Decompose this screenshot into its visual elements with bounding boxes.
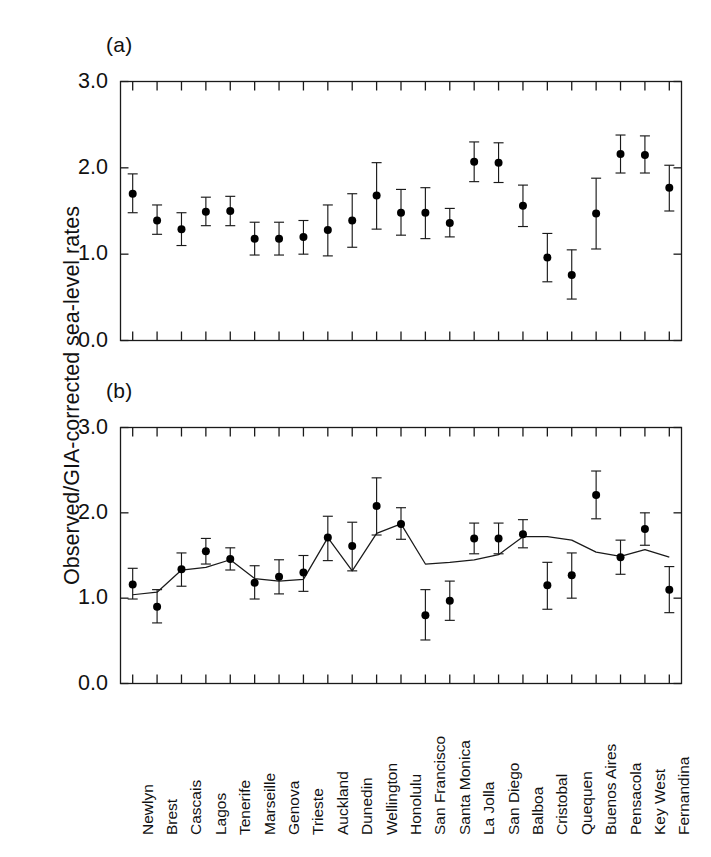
data-point bbox=[299, 569, 307, 577]
data-point bbox=[177, 225, 185, 233]
data-point bbox=[348, 216, 356, 224]
x-tick-label: Tenerife bbox=[236, 780, 254, 835]
x-tick-label: San Francisco bbox=[431, 736, 449, 835]
data-point bbox=[446, 597, 454, 605]
x-tick-label: San Diego bbox=[505, 763, 523, 835]
x-tick-label: Newlyn bbox=[139, 784, 157, 835]
y-tick-label: 0.0 bbox=[50, 330, 108, 352]
data-point bbox=[153, 216, 161, 224]
data-point bbox=[641, 151, 649, 159]
data-point bbox=[568, 271, 576, 279]
data-point bbox=[470, 158, 478, 166]
figure-container: (a) (b) Observed/GIA-corrected sea-level… bbox=[0, 0, 711, 857]
data-point bbox=[275, 235, 283, 243]
data-point bbox=[202, 208, 210, 216]
y-tick-label: 2.0 bbox=[50, 502, 108, 524]
x-tick-label: Honolulu bbox=[407, 774, 425, 835]
x-tick-label: Santa Monica bbox=[456, 740, 474, 835]
x-tick-label: Cascais bbox=[187, 780, 205, 835]
data-point bbox=[446, 219, 454, 227]
data-point bbox=[324, 226, 332, 234]
data-point bbox=[592, 491, 600, 499]
data-point bbox=[373, 191, 381, 199]
y-tick-label: 3.0 bbox=[50, 417, 108, 439]
data-point bbox=[324, 534, 332, 542]
x-tick-label: Trieste bbox=[309, 788, 327, 835]
data-point bbox=[592, 210, 600, 218]
data-point bbox=[495, 534, 503, 542]
y-tick-label: 1.0 bbox=[50, 243, 108, 265]
data-point bbox=[397, 209, 405, 217]
data-point bbox=[275, 573, 283, 581]
x-tick-label: Genova bbox=[285, 781, 303, 835]
data-point bbox=[519, 202, 527, 210]
x-tick-label: La Jolla bbox=[480, 782, 498, 835]
x-tick-label: Marseille bbox=[261, 773, 279, 835]
x-tick-label: Cristobal bbox=[553, 774, 571, 835]
data-point bbox=[251, 235, 259, 243]
data-point bbox=[665, 586, 673, 594]
x-tick-label: Auckland bbox=[334, 771, 352, 835]
x-tick-label: Pensacola bbox=[627, 763, 645, 835]
x-tick-label: Wellington bbox=[383, 763, 401, 835]
data-point bbox=[519, 530, 527, 538]
data-point bbox=[153, 603, 161, 611]
data-point bbox=[348, 542, 356, 550]
data-point bbox=[226, 555, 234, 563]
y-tick-label: 0.0 bbox=[50, 673, 108, 695]
data-point bbox=[617, 150, 625, 158]
data-point bbox=[470, 534, 478, 542]
x-tick-label: Balboa bbox=[529, 787, 547, 835]
y-tick-label: 1.0 bbox=[50, 587, 108, 609]
x-tick-label: Key West bbox=[651, 769, 669, 835]
data-point bbox=[129, 190, 137, 198]
panel-frame-b bbox=[121, 428, 682, 684]
x-tick-label: Fernandina bbox=[675, 757, 693, 835]
x-tick-label: Brest bbox=[163, 799, 181, 835]
x-tick-label: Lagos bbox=[212, 793, 230, 835]
data-point bbox=[421, 209, 429, 217]
data-point bbox=[543, 254, 551, 262]
x-tick-label: Buenos Aires bbox=[602, 744, 620, 835]
data-point bbox=[251, 579, 259, 587]
data-point bbox=[202, 547, 210, 555]
data-point bbox=[397, 520, 405, 528]
data-point bbox=[373, 502, 381, 510]
data-point bbox=[568, 571, 576, 579]
data-point bbox=[495, 159, 503, 167]
y-tick-label: 3.0 bbox=[50, 71, 108, 93]
data-point bbox=[617, 553, 625, 561]
data-point bbox=[299, 233, 307, 241]
data-point bbox=[641, 525, 649, 533]
data-point bbox=[226, 207, 234, 215]
data-point bbox=[665, 184, 673, 192]
data-point bbox=[129, 581, 137, 589]
data-point bbox=[543, 581, 551, 589]
data-point bbox=[421, 611, 429, 619]
y-tick-label: 2.0 bbox=[50, 157, 108, 179]
x-tick-label: Dunedin bbox=[358, 777, 376, 835]
x-tick-label: Quequen bbox=[578, 771, 596, 835]
data-point bbox=[177, 565, 185, 573]
